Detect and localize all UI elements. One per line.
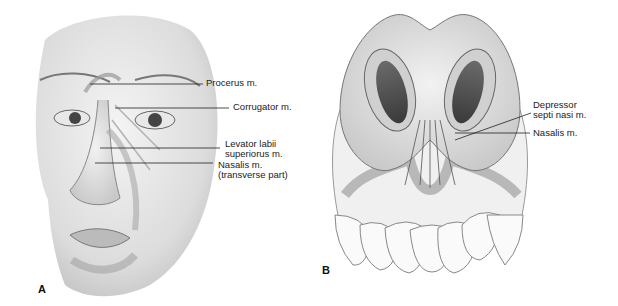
nose-base-illustration xyxy=(333,15,528,273)
label-depressor-septi-nasi: Depressor septi nasi m. xyxy=(533,100,586,120)
panel-letter-b: B xyxy=(322,264,330,276)
panel-letter-a: A xyxy=(38,283,46,295)
face-illustration xyxy=(36,16,218,297)
label-nasalis: Nasalis m. xyxy=(533,128,577,138)
label-levator-labii-superioris: Levator labii superiorus m. xyxy=(225,139,283,159)
anatomy-illustration xyxy=(0,0,618,306)
label-corrugator: Corrugator m. xyxy=(233,102,292,112)
label-procerus: Procerus m. xyxy=(206,78,257,88)
label-nasalis-transverse: Nasalis m. (transverse part) xyxy=(218,160,288,180)
